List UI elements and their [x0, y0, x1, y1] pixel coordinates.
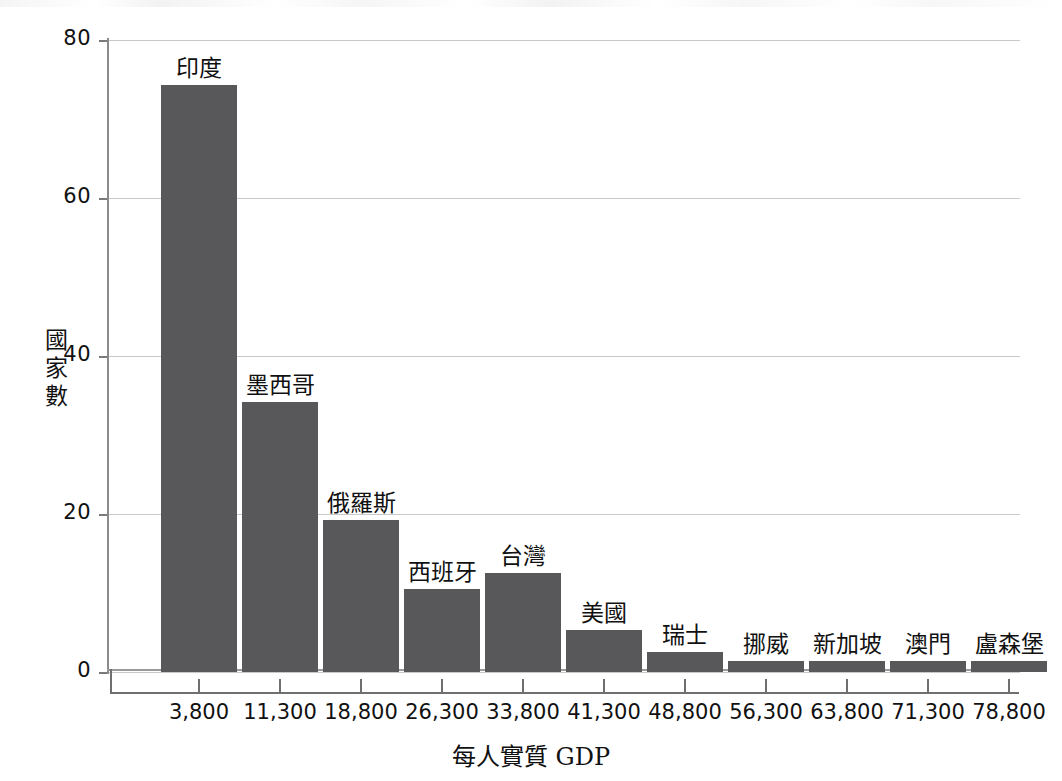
plot-area: 印度墨西哥俄羅斯西班牙台灣美國瑞士挪威新加坡澳門盧森堡 — [107, 40, 1020, 672]
x-tick-label: 56,300 — [729, 700, 802, 724]
x-axis-title: 每人實質 GDP — [0, 737, 1062, 772]
bar-value-label: 新加坡 — [813, 631, 882, 657]
bar[interactable] — [566, 630, 642, 672]
x-tick-label: 11,300 — [243, 700, 316, 724]
y-tick-label: 60 — [51, 184, 91, 208]
x-tick-label: 18,800 — [324, 700, 397, 724]
bar[interactable] — [242, 402, 318, 672]
x-tick-mark — [441, 679, 443, 693]
x-tick-mark — [603, 679, 605, 693]
bar[interactable] — [728, 661, 804, 672]
bar-value-label: 俄羅斯 — [327, 490, 396, 516]
x-tick-label: 33,800 — [486, 700, 559, 724]
x-tick-mark — [684, 679, 686, 693]
bar-value-label: 盧森堡 — [975, 631, 1044, 657]
bar[interactable] — [404, 589, 480, 672]
bar-value-label: 挪威 — [743, 631, 789, 657]
bar-value-label: 墨西哥 — [246, 372, 315, 398]
bar-value-label: 印度 — [176, 55, 222, 81]
y-axis-title-char: 國 — [43, 326, 69, 354]
bar-value-label: 西班牙 — [408, 559, 477, 585]
x-tick-mark — [765, 679, 767, 693]
y-axis-title-char: 數 — [43, 382, 69, 410]
bar[interactable] — [485, 573, 561, 672]
bar[interactable] — [971, 661, 1047, 672]
x-tick-mark — [846, 679, 848, 693]
x-tick-label: 63,800 — [810, 700, 883, 724]
x-tick-mark — [279, 679, 281, 693]
x-tick-label: 26,300 — [405, 700, 478, 724]
x-tick-label: 41,300 — [567, 700, 640, 724]
x-axis-left-cap — [110, 669, 112, 694]
x-tick-mark — [927, 679, 929, 693]
bar[interactable] — [890, 661, 966, 672]
y-tick-label: 20 — [51, 500, 91, 524]
y-axis-title: 國 家 數 — [43, 326, 69, 410]
x-tick-mark — [1008, 679, 1010, 693]
bar-value-label: 瑞士 — [662, 622, 708, 648]
bar-chart: 020406080 國 家 數 印度墨西哥俄羅斯西班牙台灣美國瑞士挪威新加坡澳門… — [0, 0, 1062, 781]
y-tick-label: 0 — [51, 658, 91, 682]
x-tick-mark — [198, 679, 200, 693]
bar[interactable] — [323, 520, 399, 672]
scan-artifact — [0, 0, 1062, 7]
x-tick-label: 48,800 — [648, 700, 721, 724]
x-tick-mark — [522, 679, 524, 693]
x-tick-label: 71,300 — [891, 700, 964, 724]
y-axis-title-char: 家 — [43, 354, 69, 382]
x-tick-label: 3,800 — [169, 700, 229, 724]
x-axis-line — [110, 692, 1019, 694]
bar[interactable] — [647, 652, 723, 672]
bar-value-label: 台灣 — [500, 543, 546, 569]
bar[interactable] — [161, 85, 237, 672]
bar[interactable] — [809, 661, 885, 672]
bar-value-label: 澳門 — [905, 631, 951, 657]
gridline — [107, 672, 1020, 673]
bar-value-label: 美國 — [581, 600, 627, 626]
y-tick-label: 80 — [51, 26, 91, 50]
x-tick-label: 78,800 — [972, 700, 1045, 724]
x-tick-mark — [360, 679, 362, 693]
